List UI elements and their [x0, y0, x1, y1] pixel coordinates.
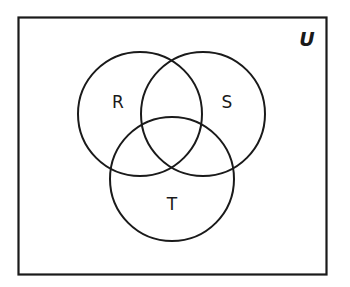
- set-t-circle: [110, 117, 234, 241]
- universe-label: U: [299, 28, 315, 50]
- universe-rectangle: [19, 18, 327, 275]
- venn-diagram: U R S T: [0, 0, 350, 287]
- set-t-label: T: [166, 194, 178, 214]
- set-r-label: R: [112, 92, 124, 112]
- set-s-label: S: [222, 92, 233, 112]
